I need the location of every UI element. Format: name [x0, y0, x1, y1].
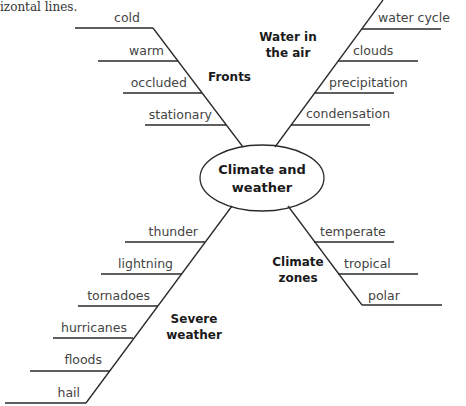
- zones-item-temperate: temperate: [320, 224, 386, 239]
- water-item-water-cycle: water cycle: [378, 10, 450, 25]
- severe-item-tornadoes: tornadoes: [87, 288, 150, 303]
- fronts-item-warm: warm: [129, 43, 164, 58]
- fronts-title: Fronts: [208, 70, 251, 84]
- severe-item-lightning: lightning: [118, 256, 173, 271]
- fronts-item-stationary: stationary: [149, 107, 213, 122]
- severe-item-hurricanes: hurricanes: [61, 320, 127, 335]
- severe-title-line2: weather: [166, 328, 222, 342]
- water-item-precipitation: precipitation: [329, 75, 408, 90]
- center-ellipse: [200, 145, 324, 211]
- zones-title-line1: Climate: [272, 255, 324, 269]
- water-title-line2: the air: [266, 46, 311, 60]
- center-label-line2: weather: [232, 180, 293, 195]
- zones-item-polar: polar: [368, 288, 401, 303]
- mind-map-diagram: izontal lines. Climate and weather cold …: [0, 0, 466, 406]
- branch-water: water cycle clouds precipitation condens…: [259, 0, 450, 147]
- water-item-condensation: condensation: [306, 106, 390, 121]
- zones-title-line2: zones: [278, 271, 317, 285]
- fronts-item-occluded: occluded: [131, 75, 187, 90]
- fronts-item-cold: cold: [114, 10, 140, 25]
- branch-severe: thunder lightning tornadoes hurricanes f…: [5, 206, 232, 403]
- center-node: Climate and weather: [200, 145, 324, 211]
- branch-fronts: cold warm occluded stationary Fronts: [75, 10, 251, 147]
- caption-fragment: izontal lines.: [0, 0, 77, 14]
- severe-item-floods: floods: [64, 352, 102, 367]
- water-title-line1: Water in: [259, 30, 317, 44]
- center-label-line1: Climate and: [218, 162, 306, 177]
- severe-item-hail: hail: [57, 385, 80, 400]
- severe-item-thunder: thunder: [149, 224, 199, 239]
- branch-zones: temperate tropical polar Climate zones: [272, 206, 442, 305]
- severe-title-line1: Severe: [171, 312, 218, 326]
- water-item-clouds: clouds: [353, 43, 393, 58]
- zones-item-tropical: tropical: [344, 256, 391, 271]
